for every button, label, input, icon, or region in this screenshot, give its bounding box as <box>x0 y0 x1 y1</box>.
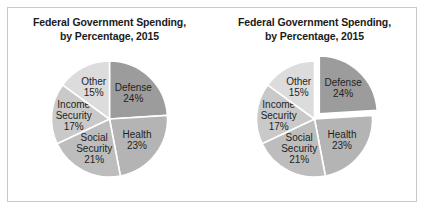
pie-svg-standard: Defense24%Health23%SocialSecurity21%Inco… <box>7 43 212 198</box>
pie-slice-label-other: Other15% <box>286 76 312 98</box>
chart-title-left: Federal Government Spending, by Percenta… <box>7 16 212 43</box>
chart-title-right-line2: by Percentage, 2015 <box>212 30 417 44</box>
pie-chart-standard: Defense24%Health23%SocialSecurity21%Inco… <box>7 43 212 198</box>
chart-title-right-line1: Federal Government Spending, <box>238 16 391 28</box>
chart-title-left-line2: by Percentage, 2015 <box>7 30 212 44</box>
pie-svg-exploded: Defense24%Health23%SocialSecurity21%Inco… <box>212 43 417 198</box>
pie-chart-exploded: Defense24%Health23%SocialSecurity21%Inco… <box>212 43 417 198</box>
pie-slice-label-other: Other15% <box>81 76 107 98</box>
chart-title-right: Federal Government Spending, by Percenta… <box>212 16 417 43</box>
panel-row: Federal Government Spending, by Percenta… <box>7 7 417 202</box>
panel-pie-exploded: Federal Government Spending, by Percenta… <box>212 7 417 202</box>
panel-pie-standard: Federal Government Spending, by Percenta… <box>7 7 212 202</box>
chart-title-left-line1: Federal Government Spending, <box>33 16 186 28</box>
figure-container: Federal Government Spending, by Percenta… <box>0 0 425 217</box>
